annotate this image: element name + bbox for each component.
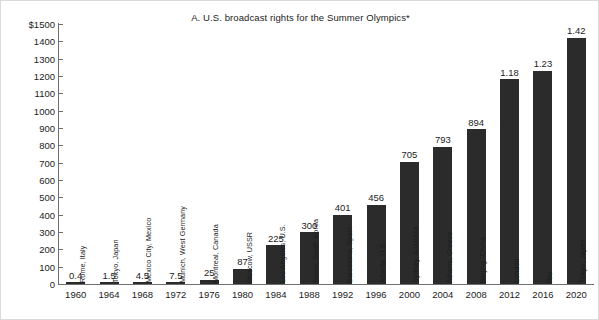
y-axis-tick-label: 800 bbox=[3, 140, 55, 151]
y-axis-tick-label: 700 bbox=[3, 157, 55, 168]
x-axis-tick-label: 1972 bbox=[165, 289, 186, 300]
bar-city-label: Barcelona, Spain bbox=[345, 227, 354, 283]
y-axis-tick-label: 900 bbox=[3, 123, 55, 134]
bar-city-label: Rio bbox=[545, 272, 554, 283]
bar-city-label: Munich, West Germany bbox=[178, 206, 187, 283]
bar-city-label: Tokyo, Japan bbox=[111, 239, 120, 283]
bar-city-label: Moscow, USSR bbox=[245, 232, 254, 283]
chart-title: A. U.S. broadcast rights for the Summer … bbox=[1, 12, 599, 23]
y-axis-tick-label: 200 bbox=[3, 244, 55, 255]
y-axis-tick-label: 100 bbox=[3, 261, 55, 272]
bar-city-label: Montreal, Canada bbox=[211, 224, 220, 283]
y-axis-tick-label: 300 bbox=[3, 227, 55, 238]
x-axis-tick-label: 1984 bbox=[265, 289, 286, 300]
bar-value-label: 894 bbox=[468, 117, 484, 128]
bar-city-label: Los Angeles, U.S. bbox=[278, 224, 287, 283]
bar-city-label: Tokyo, Japan bbox=[578, 239, 587, 283]
bar-value-label: 1.42 bbox=[567, 25, 586, 36]
y-axis-tick-label: 1300 bbox=[3, 53, 55, 64]
bar-city-label: Seoul, South Korea bbox=[311, 219, 320, 283]
y-axis-tick-label: 600 bbox=[3, 175, 55, 186]
x-axis-tick-label: 1968 bbox=[132, 289, 153, 300]
bar-city-label: Atlanta, U.S. bbox=[378, 241, 387, 283]
bar-city-label: London bbox=[512, 258, 521, 283]
x-axis-tick-label: 1976 bbox=[199, 289, 220, 300]
x-axis-tick-label: 1996 bbox=[365, 289, 386, 300]
bar-city-label: Athens, Greece bbox=[445, 232, 454, 283]
bar-value-label: 1.18 bbox=[500, 67, 519, 78]
bar-value-label: 456 bbox=[368, 192, 384, 203]
y-axis-tick-label: 1200 bbox=[3, 71, 55, 82]
x-axis-tick-label: 2020 bbox=[566, 289, 587, 300]
x-axis-tick-label: 2012 bbox=[499, 289, 520, 300]
bar-value-label: 401 bbox=[335, 202, 351, 213]
x-axis-tick-label: 1980 bbox=[232, 289, 253, 300]
y-axis-tick-label: 1100 bbox=[3, 88, 55, 99]
x-axis-tick-label: 2008 bbox=[466, 289, 487, 300]
bar[interactable] bbox=[533, 71, 552, 284]
bar-value-label: 1.23 bbox=[534, 58, 553, 69]
bar[interactable] bbox=[500, 79, 519, 284]
y-axis-tick-label: 1400 bbox=[3, 36, 55, 47]
y-axis-tick bbox=[58, 284, 63, 285]
y-axis-tick-label: 400 bbox=[3, 209, 55, 220]
x-axis-tick-label: 2016 bbox=[532, 289, 553, 300]
bar-city-label: Sydney, Australia bbox=[411, 226, 420, 283]
x-axis-tick-label: 1992 bbox=[332, 289, 353, 300]
x-axis-tick-label: 1988 bbox=[299, 289, 320, 300]
chart-figure: A. U.S. broadcast rights for the Summer … bbox=[0, 0, 599, 320]
bar-value-label: 705 bbox=[402, 149, 418, 160]
bar-group[interactable]: 1.18 bbox=[500, 24, 519, 284]
x-axis-tick-label: 2000 bbox=[399, 289, 420, 300]
plot-area: 0.4Rome, Italy1.5Tokyo, Japan4.5Mexico C… bbox=[59, 24, 593, 284]
y-axis-tick-label: 1000 bbox=[3, 105, 55, 116]
bar-city-label: Rome, Italy bbox=[78, 246, 87, 283]
bar-group[interactable]: 1.23 bbox=[533, 24, 552, 284]
x-axis-tick-label: 1960 bbox=[65, 289, 86, 300]
y-axis-tick-label: $1500 bbox=[3, 19, 55, 30]
y-axis-tick-label: 500 bbox=[3, 192, 55, 203]
x-axis-tick-label: 2004 bbox=[432, 289, 453, 300]
bar-city-label: Beijing, China bbox=[478, 237, 487, 283]
x-axis-tick-label: 1964 bbox=[98, 289, 119, 300]
y-axis-tick-label: 0 bbox=[3, 279, 55, 290]
bar-city-label: Mexico City, Mexico bbox=[144, 218, 153, 283]
y-axis-labels: $150014001300120011001000900800700600500… bbox=[1, 1, 55, 320]
x-axis-line bbox=[58, 284, 594, 285]
bar-value-label: 793 bbox=[435, 134, 451, 145]
